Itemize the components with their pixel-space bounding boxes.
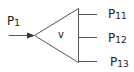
splitter-triangle [35, 9, 79, 63]
output-label-1-sub: 11 [115, 11, 126, 21]
output-label-1: P11 [108, 8, 127, 21]
output-label-3: P13 [110, 56, 129, 69]
output-label-3-sub: 13 [117, 59, 128, 69]
input-label-sub: 1 [14, 18, 20, 28]
input-label: P1 [7, 15, 20, 28]
output-label-2: P12 [108, 32, 127, 45]
node-label: v [58, 30, 64, 40]
output-label-2-sub: 12 [115, 35, 126, 45]
